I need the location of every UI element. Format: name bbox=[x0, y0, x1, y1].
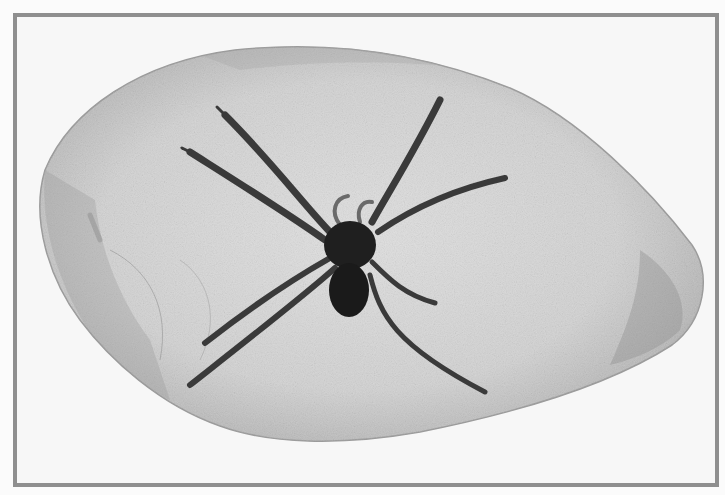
spider-cephalothorax bbox=[324, 221, 376, 269]
amber-photo bbox=[0, 0, 725, 495]
spider-abdomen bbox=[329, 263, 369, 317]
